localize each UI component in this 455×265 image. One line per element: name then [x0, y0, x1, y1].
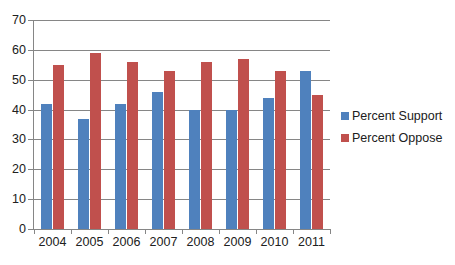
bar-2008-support — [189, 110, 200, 229]
bar-2010-oppose — [275, 71, 286, 229]
bar-2006-oppose — [127, 62, 138, 229]
bar-2006-support — [115, 104, 126, 229]
x-axis-tick-label-2005: 2005 — [70, 236, 110, 249]
bar-2007-support — [152, 92, 163, 229]
y-axis-tick — [28, 199, 33, 200]
y-axis-tick-label: 40 — [2, 104, 26, 117]
bar-2004-support — [41, 104, 52, 229]
y-axis-tick-label: 50 — [2, 74, 26, 87]
x-axis-tick — [34, 229, 35, 234]
x-axis-tick-label-2006: 2006 — [107, 236, 147, 249]
legend-swatch-icon-oppose — [341, 134, 349, 142]
bar-chart: 010203040506070 200420052006200720082009… — [0, 0, 340, 265]
legend-label-oppose: Percent Oppose — [352, 132, 442, 145]
bar-2009-support — [226, 110, 237, 229]
chart-screenshot: 010203040506070 200420052006200720082009… — [0, 0, 455, 265]
y-axis-tick-label: 20 — [2, 163, 26, 176]
y-axis-tick-label: 10 — [2, 193, 26, 206]
bar-2010-support — [263, 98, 274, 229]
bar-2009-oppose — [238, 59, 249, 229]
bar-2011-oppose — [312, 95, 323, 229]
bar-2004-oppose — [53, 65, 64, 229]
x-axis-tick — [330, 229, 331, 234]
bar-2011-support — [300, 71, 311, 229]
legend-label-support: Percent Support — [352, 110, 442, 123]
y-axis-tick — [28, 110, 33, 111]
y-axis-tick — [28, 80, 33, 81]
bar-2005-oppose — [90, 53, 101, 229]
y-axis-tick — [28, 50, 33, 51]
y-axis-tick — [28, 229, 33, 230]
x-axis-tick — [71, 229, 72, 234]
x-axis-tick-label-2007: 2007 — [144, 236, 184, 249]
legend-item-percent-oppose: Percent Oppose — [341, 127, 455, 149]
y-axis-tick — [28, 20, 33, 21]
x-axis-tick-label-2011: 2011 — [292, 236, 332, 249]
y-axis-tick-label: 60 — [2, 44, 26, 57]
legend-swatch-icon-support — [341, 112, 349, 120]
x-axis-tick-label-2010: 2010 — [255, 236, 295, 249]
y-axis-labels: 010203040506070 — [0, 0, 26, 265]
x-axis-tick-label-2009: 2009 — [218, 236, 258, 249]
legend-item-percent-support: Percent Support — [341, 105, 455, 127]
chart-legend: Percent Support Percent Oppose — [341, 105, 455, 149]
x-axis-tick — [256, 229, 257, 234]
x-axis-tick-label-2008: 2008 — [181, 236, 221, 249]
y-axis-tick-label: 30 — [2, 133, 26, 146]
x-axis-tick — [219, 229, 220, 234]
x-axis-tick — [182, 229, 183, 234]
bar-2007-oppose — [164, 71, 175, 229]
bar-2008-oppose — [201, 62, 212, 229]
x-axis-tick — [145, 229, 146, 234]
x-axis-tick — [293, 229, 294, 234]
y-axis-tick-label: 0 — [2, 223, 26, 236]
bar-group-container — [34, 20, 330, 229]
y-axis-tick — [28, 139, 33, 140]
x-axis-tick-label-2004: 2004 — [33, 236, 73, 249]
bar-2005-support — [78, 119, 89, 229]
x-axis-tick — [108, 229, 109, 234]
y-axis-tick-label: 70 — [2, 14, 26, 27]
y-axis-tick — [28, 169, 33, 170]
